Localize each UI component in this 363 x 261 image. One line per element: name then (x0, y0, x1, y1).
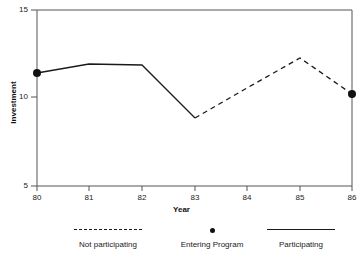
investment-by-year-chart: 15 10 5 80 81 82 83 84 85 86 Investment … (0, 0, 363, 261)
y-tick-label-5: 5 (8, 181, 28, 190)
legend-label-participating: Participating (247, 240, 355, 250)
x-axis-title: Year (0, 205, 363, 214)
x-tick-label-86: 86 (340, 193, 363, 202)
x-tick-label-81: 81 (77, 193, 101, 202)
legend-swatch-solid (247, 224, 355, 236)
plot-area (0, 0, 363, 261)
x-tick-label-85: 85 (288, 193, 312, 202)
chart-legend: Not participating Entering Program Parti… (0, 224, 363, 248)
series-not-participating-line (195, 58, 352, 118)
y-tick-label-15: 15 (8, 5, 28, 14)
x-tick-label-83: 83 (183, 193, 207, 202)
x-tick-label-84: 84 (235, 193, 259, 202)
x-tick-label-80: 80 (25, 193, 49, 202)
series-participating-line (37, 64, 195, 118)
solid-line-icon (267, 229, 335, 230)
legend-item-participating: Participating (247, 224, 355, 250)
y-axis-title: Investment (9, 68, 18, 138)
x-tick-label-82: 82 (130, 193, 154, 202)
filled-circle-icon (210, 228, 215, 233)
entering-program-marker-86 (348, 90, 356, 98)
dashed-line-icon (74, 229, 142, 230)
entering-program-marker-80 (33, 69, 41, 77)
